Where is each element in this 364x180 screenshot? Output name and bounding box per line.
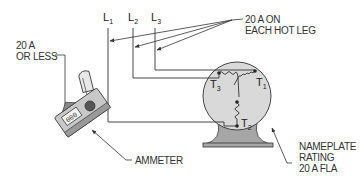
- nameplate-leader: [272, 128, 292, 163]
- or-less-leader: [55, 55, 65, 113]
- callout-or-less: 20 A OR LESS: [16, 40, 57, 62]
- label-l3: L3: [151, 11, 161, 25]
- ammeter: 000: [42, 68, 113, 137]
- label-t1: T1: [256, 76, 267, 90]
- callout-nameplate: NAMEPLATE RATING 20 A FLA: [299, 141, 356, 174]
- label-t2: T2: [241, 117, 252, 131]
- callout-hot-leg: 20 A ON EACH HOT LEG: [245, 14, 316, 36]
- ammeter-leader: [92, 130, 132, 160]
- label-l1: L1: [103, 11, 113, 25]
- label-t3: T3: [210, 78, 221, 92]
- callout-ammeter: AMMETER: [135, 155, 183, 166]
- label-l2: L2: [128, 11, 138, 25]
